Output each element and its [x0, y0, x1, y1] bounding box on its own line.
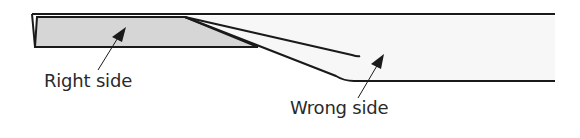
wrong-side-region: [185, 16, 555, 81]
wrong-side-label: Wrong side: [290, 97, 388, 118]
right-side-label: Right side: [44, 70, 132, 91]
